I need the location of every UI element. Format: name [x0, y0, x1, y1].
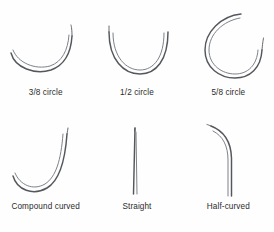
needle-cell-straight: Straight	[91, 116, 182, 232]
needle-cell-one-half-circle: 1/2 circle	[91, 0, 182, 116]
needle-cell-compound-curved: Compound curved	[0, 116, 91, 232]
needle-label: Compound curved	[11, 202, 79, 212]
needle-shapes-figure: 3/8 circle 1/2 circle 5/8 circle	[0, 0, 274, 231]
three-eighths-circle-icon	[1, 6, 91, 88]
needle-label: Straight	[122, 202, 151, 212]
needle-label: 3/8 circle	[29, 88, 63, 98]
needle-label: 1/2 circle	[120, 88, 154, 98]
five-eighths-circle-icon	[183, 6, 273, 88]
needle-label: Half-curved	[207, 202, 250, 212]
needle-cell-five-eighths-circle: 5/8 circle	[183, 0, 274, 116]
half-curved-icon	[183, 120, 273, 202]
needle-label: 5/8 circle	[211, 88, 245, 98]
compound-curved-icon	[1, 120, 91, 202]
one-half-circle-icon	[92, 6, 182, 88]
needle-grid: 3/8 circle 1/2 circle 5/8 circle	[0, 0, 274, 231]
straight-icon	[92, 120, 182, 202]
needle-cell-three-eighths-circle: 3/8 circle	[0, 0, 91, 116]
needle-cell-half-curved: Half-curved	[183, 116, 274, 232]
